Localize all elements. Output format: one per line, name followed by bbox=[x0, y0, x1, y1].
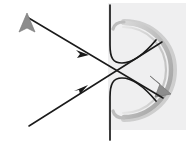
diagram-canvas bbox=[0, 0, 186, 145]
optics-ray-diagram bbox=[0, 0, 186, 145]
